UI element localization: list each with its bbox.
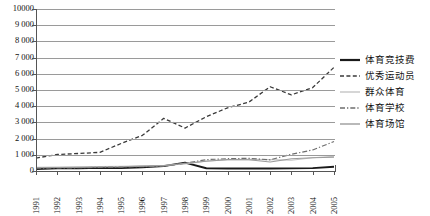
legend-item-label: 体育学校 <box>365 103 405 113</box>
legend-item-label: 体育场馆 <box>365 119 405 129</box>
legend-item-label: 体育竞技费 <box>365 55 415 65</box>
y-axis-tick-label: 10000 <box>0 4 34 13</box>
gridline <box>36 106 335 107</box>
legend-item[interactable]: 优秀运动员 <box>340 68 430 84</box>
y-axis-tick-label: 0 <box>0 166 34 175</box>
x-axis-tick-label: 1999 <box>202 174 211 214</box>
y-axis-tick-label: 6 000 <box>0 69 34 78</box>
x-axis-tick-label: 2004 <box>309 174 318 214</box>
y-axis-tick-label: 1 000 <box>0 150 34 159</box>
x-axis-tick-label: 1996 <box>138 174 147 214</box>
y-axis-tick-label: 7 000 <box>0 53 34 62</box>
chart-legend: 体育竞技费优秀运动员群众体育体育学校体育场馆 <box>340 52 430 132</box>
x-axis-tick-label: 2001 <box>245 174 254 214</box>
x-axis-end-tick <box>335 165 336 172</box>
x-axis-tick-label: 2000 <box>224 174 233 214</box>
legend-item[interactable]: 群众体育 <box>340 84 430 100</box>
chart-container: 100009 0008 0007 0006 0005 0004 0003 000… <box>0 0 430 216</box>
legend-item[interactable]: 体育学校 <box>340 100 430 116</box>
x-axis-tick-label: 2005 <box>330 174 339 214</box>
gridline <box>36 155 335 156</box>
gridline <box>36 41 335 42</box>
legend-item[interactable]: 体育场馆 <box>340 116 430 132</box>
legend-item[interactable]: 体育竞技费 <box>340 52 430 68</box>
gridline <box>36 25 335 26</box>
legend-solid-thick-swatch <box>340 55 360 65</box>
x-axis-tick-label: 1992 <box>53 174 62 214</box>
y-axis-tick-label: 2 000 <box>0 134 34 143</box>
x-axis-tick-label: 1994 <box>96 174 105 214</box>
y-axis-line <box>36 9 37 172</box>
x-axis-tick-label: 2003 <box>287 174 296 214</box>
x-axis-tick-label: 1993 <box>75 174 84 214</box>
x-axis-tick-label: 1991 <box>32 174 41 214</box>
x-axis-tick-label: 1997 <box>160 174 169 214</box>
gridline <box>36 90 335 91</box>
y-axis-tick-label: 3 000 <box>0 117 34 126</box>
y-axis-tick-label: 5 000 <box>0 85 34 94</box>
legend-solid-light-swatch <box>340 87 360 97</box>
gridline <box>36 74 335 75</box>
gridline <box>36 139 335 140</box>
legend-item-label: 群众体育 <box>365 87 405 97</box>
x-axis-tick-label: 1995 <box>117 174 126 214</box>
y-axis-tick-label: 8 000 <box>0 36 34 45</box>
x-axis-tick-label: 1998 <box>181 174 190 214</box>
gridline <box>36 122 335 123</box>
legend-dash-dot-swatch <box>340 103 360 113</box>
gridline <box>36 58 335 59</box>
gridline <box>36 9 335 10</box>
x-axis-tick-label: 2002 <box>266 174 275 214</box>
y-axis-tick-label: 4 000 <box>0 101 34 110</box>
legend-item-label: 优秀运动员 <box>365 71 415 81</box>
plot-area <box>36 9 335 171</box>
y-axis-tick-label: 9 000 <box>0 20 34 29</box>
series-line <box>36 67 334 158</box>
legend-dashed-swatch <box>340 71 360 81</box>
legend-solid-medium-swatch <box>340 119 360 129</box>
